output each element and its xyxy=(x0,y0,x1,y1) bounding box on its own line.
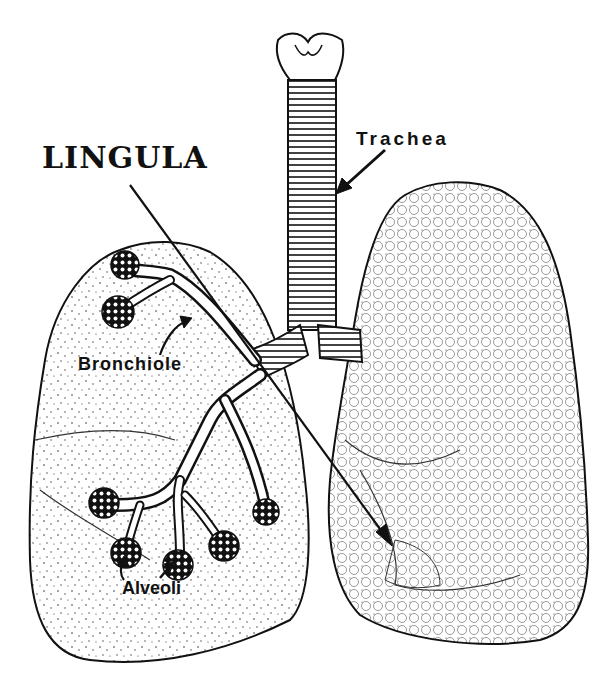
lung-illustration xyxy=(0,0,610,685)
left-lung xyxy=(329,182,588,644)
lingula-label: LINGULA xyxy=(42,140,208,175)
trachea-label: Trachea xyxy=(356,128,449,150)
lung-diagram: LINGULA Trachea Bronchiole Alveoli xyxy=(0,0,610,685)
bronchiole-label: Bronchiole xyxy=(78,354,182,375)
trachea-tube xyxy=(288,80,336,330)
alveoli-label: Alveoli xyxy=(122,578,181,599)
left-main-bronchus xyxy=(318,325,362,362)
larynx xyxy=(277,34,343,81)
